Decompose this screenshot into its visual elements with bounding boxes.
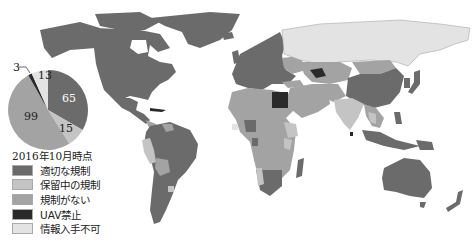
ghana	[232, 124, 238, 130]
philippines	[394, 112, 402, 124]
north-america	[94, 28, 176, 100]
new-zealand	[446, 190, 463, 212]
legend-item-pending: 保留中の規制	[12, 178, 100, 193]
png	[416, 140, 434, 150]
indonesia	[362, 130, 420, 150]
madagascar	[296, 158, 304, 178]
legend-swatch	[12, 165, 33, 176]
pie-label-pending: 15	[59, 123, 73, 134]
cuba	[150, 108, 166, 112]
alaska	[40, 22, 100, 58]
australia	[382, 158, 432, 198]
south-america-main	[144, 122, 198, 224]
mexico	[112, 98, 150, 124]
korea	[404, 78, 410, 88]
legend-label: 情報入手不可	[40, 221, 100, 236]
legend-item-no-info: 情報入手不可	[12, 221, 100, 236]
uruguay	[168, 186, 174, 192]
legend-swatch	[12, 223, 33, 234]
gabon	[252, 138, 258, 146]
legend-label: 保留中の規制	[40, 177, 100, 192]
india	[334, 98, 364, 130]
tasmania	[420, 202, 426, 208]
egypt	[272, 92, 288, 108]
uk	[232, 50, 240, 64]
thailand	[368, 112, 376, 124]
kazakhstan	[300, 62, 352, 84]
legend-swatch	[12, 179, 33, 190]
legend-swatch	[12, 194, 33, 205]
legend-label: UAV禁止	[40, 207, 81, 222]
canada-islands	[95, 12, 160, 30]
legend-item-none: 規制がない	[12, 192, 100, 207]
pie-label-appropriate: 65	[62, 93, 76, 104]
legend-label: 適切な規制	[40, 163, 90, 178]
legend-label: 規制がない	[40, 192, 90, 207]
russia	[282, 20, 470, 66]
legend-swatch	[12, 209, 33, 220]
nigeria	[244, 120, 256, 132]
legend: 適切な規制 保留中の規制 規制がない UAV禁止 情報入手不可	[12, 163, 100, 236]
legend-item-appropriate: 適切な規制	[12, 163, 100, 178]
pie-label-none: 99	[24, 111, 38, 122]
date-caption: 2016年10月時点	[12, 148, 92, 163]
sri-lanka	[350, 132, 353, 136]
legend-item-banned: UAV禁止	[12, 207, 100, 222]
pie-label-no-info: 13	[38, 70, 52, 81]
pie-label-banned: 3	[13, 62, 20, 73]
